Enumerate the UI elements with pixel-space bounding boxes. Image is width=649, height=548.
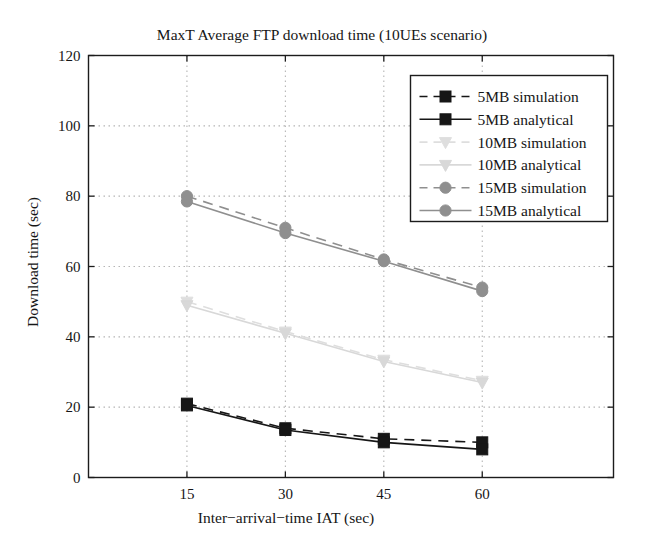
y-tick-label-40: 40	[66, 329, 81, 345]
legend-marker-5MB-analytical	[440, 114, 451, 125]
figure-page: 15304560020406080100120 5MB simulation5M…	[0, 0, 649, 548]
marker-5MB-analytical-15	[181, 400, 192, 411]
marker-5MB-analytical-60	[477, 444, 488, 455]
y-tick-label-20: 20	[66, 399, 81, 415]
y-tick-label-60: 60	[66, 259, 81, 275]
series-5MB-simulation	[181, 398, 487, 448]
x-tick-label-30: 30	[278, 486, 293, 502]
legend-label-5MB-simulation: 5MB simulation	[478, 88, 579, 105]
x-axis-label: Inter−arrival−time IAT (sec)	[198, 509, 374, 527]
x-tick-label-60: 60	[475, 486, 490, 502]
series-layer	[181, 191, 488, 455]
legend-label-5MB-analytical: 5MB analytical	[478, 111, 574, 128]
legend-label-15MB-simulation: 15MB simulation	[478, 179, 587, 196]
series-line-5MB-analytical	[187, 405, 482, 449]
legend-marker-15MB-analytical	[440, 205, 451, 216]
x-tick-label-15: 15	[179, 486, 194, 502]
y-tick-label-100: 100	[58, 118, 81, 134]
legend-label-10MB-simulation: 10MB simulation	[478, 134, 587, 151]
chart-title: MaxT Average FTP download time (10UEs sc…	[157, 26, 487, 44]
legend-marker-5MB-simulation	[440, 91, 451, 102]
marker-15MB-analytical-60	[477, 286, 488, 297]
legend-layer: 5MB simulation5MB analytical10MB simulat…	[411, 76, 608, 222]
marker-10MB-analytical-60	[476, 378, 488, 389]
series-line-10MB-simulation	[187, 302, 482, 381]
marker-15MB-analytical-15	[181, 196, 192, 207]
marker-15MB-analytical-30	[280, 227, 291, 238]
x-tick-label-45: 45	[376, 486, 391, 502]
y-tick-label-0: 0	[73, 470, 81, 486]
y-tick-label-120: 120	[58, 48, 81, 64]
legend-label-10MB-analytical: 10MB analytical	[478, 156, 582, 173]
legend-label-15MB-analytical: 15MB analytical	[478, 202, 582, 219]
y-axis-label: Download time (sec)	[24, 197, 42, 327]
legend-item-15MB-simulation: 15MB simulation	[420, 179, 587, 196]
marker-5MB-analytical-45	[378, 437, 389, 448]
chart-canvas: 15304560020406080100120 5MB simulation5M…	[0, 0, 649, 548]
marker-5MB-analytical-30	[280, 425, 291, 436]
series-5MB-analytical	[181, 400, 487, 455]
legend-marker-15MB-simulation	[440, 182, 451, 193]
marker-15MB-analytical-45	[378, 256, 389, 267]
y-tick-label-80: 80	[66, 188, 81, 204]
